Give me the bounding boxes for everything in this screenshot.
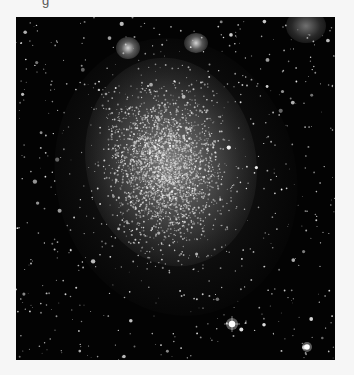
starfield (16, 17, 335, 360)
bright-star-bottom (224, 316, 240, 332)
caption-fragment: g (42, 0, 49, 7)
page: g (0, 0, 354, 375)
bright-star-bottom-right (302, 342, 312, 352)
galaxy-photo (16, 17, 335, 360)
